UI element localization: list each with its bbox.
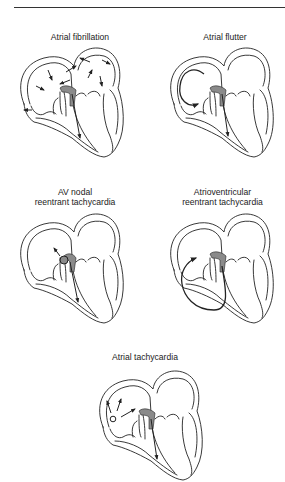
panel-title-atrial-tachycardia: Atrial tachycardia [80, 352, 210, 362]
heart-diagram-flutter [164, 44, 279, 159]
panel-title-atrial-fibrillation: Atrial fibrillation [20, 32, 140, 42]
retrograde-atrial-arrow [54, 248, 60, 256]
panel-title-atrial-flutter: Atrial flutter [170, 32, 280, 42]
ectopic-focus [110, 416, 116, 422]
panel-title-avrt-line2: reentrant tachycardia [160, 197, 285, 207]
panel-avnrt [14, 210, 129, 325]
panel-title-avnrt-line1: AV nodal [10, 187, 140, 197]
heart-diagram-at [93, 367, 208, 482]
panel-title-avnrt-line2: reentrant tachycardia [10, 197, 140, 207]
top-rule [14, 7, 285, 8]
panel-atrial-tachycardia [93, 367, 208, 482]
heart-diagram-avnrt [14, 210, 129, 325]
fibrillation-wavelet-arrows [24, 58, 110, 138]
av-node-his-bundle [210, 252, 226, 272]
panel-avrt [164, 210, 279, 325]
panel-title-avrt-line1: Atrioventricular [160, 187, 285, 197]
heart-diagram-avrt [164, 210, 279, 325]
flutter-reentry-circuit-arrow [180, 70, 204, 105]
av-node-reentry-circle [60, 256, 68, 264]
panel-atrial-fibrillation [14, 44, 129, 159]
av-node-his-bundle [139, 409, 155, 429]
heart-diagram-af [14, 44, 129, 159]
panel-atrial-flutter [164, 44, 279, 159]
